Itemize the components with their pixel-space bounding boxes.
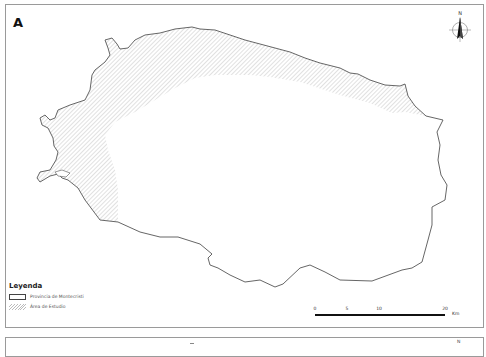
panel-label-a: A bbox=[13, 15, 23, 30]
study-area-polygon bbox=[37, 27, 426, 222]
north-label-b: N bbox=[457, 339, 460, 344]
map-panel-b bbox=[5, 337, 484, 357]
scale-segment bbox=[347, 314, 379, 316]
legend-title: Leyenda bbox=[9, 282, 129, 290]
scale-unit: Km bbox=[452, 311, 459, 316]
hatch-swatch bbox=[9, 304, 26, 310]
outline-swatch bbox=[9, 294, 26, 300]
scale-tick-5: 5 bbox=[346, 306, 349, 311]
scale-segment bbox=[315, 314, 347, 316]
svg-text:N: N bbox=[458, 10, 462, 16]
legend: Leyenda Provincia de Montecristi Área de… bbox=[9, 282, 129, 312]
scale-tick-20: 20 bbox=[442, 306, 448, 311]
legend-item-province: Provincia de Montecristi bbox=[9, 292, 129, 301]
compass-icon: N bbox=[446, 10, 474, 44]
legend-item-study-area: Área de Estudio bbox=[9, 302, 129, 311]
north-arrow: N bbox=[446, 10, 474, 44]
scale-segment bbox=[379, 314, 445, 316]
map-b-fragment bbox=[190, 343, 194, 344]
scale-tick-0: 0 bbox=[314, 306, 317, 311]
scale-tick-10: 10 bbox=[376, 306, 382, 311]
scale-bar: 0 5 10 20 Km bbox=[313, 306, 463, 322]
